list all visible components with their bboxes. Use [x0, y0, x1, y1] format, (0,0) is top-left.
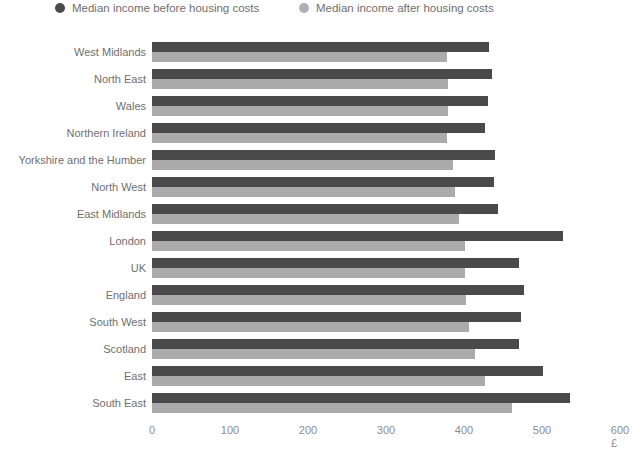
- bar-before-housing-costs[interactable]: [152, 123, 485, 133]
- x-axis-tick-0: 0: [149, 424, 155, 436]
- chart-legend: Median income before housing costs Media…: [0, 0, 640, 26]
- y-axis-label-south-east: South East: [92, 398, 146, 409]
- y-axis-label-west-midlands: West Midlands: [74, 47, 146, 58]
- bar-group: [152, 69, 620, 89]
- legend-item-after-housing-costs[interactable]: Median income after housing costs: [299, 2, 494, 14]
- bar-after-housing-costs[interactable]: [152, 322, 469, 332]
- bar-after-housing-costs[interactable]: [152, 106, 448, 116]
- bar-group: [152, 96, 620, 116]
- bar-before-housing-costs[interactable]: [152, 69, 492, 79]
- bar-after-housing-costs[interactable]: [152, 376, 485, 386]
- bar-after-housing-costs[interactable]: [152, 295, 466, 305]
- bar-group: [152, 393, 620, 413]
- bar-group: [152, 258, 620, 278]
- bar-before-housing-costs[interactable]: [152, 312, 521, 322]
- bar-after-housing-costs[interactable]: [152, 214, 459, 224]
- x-axis-tick-300: 300: [377, 424, 395, 436]
- y-axis-category-labels: West MidlandsNorth EastWalesNorthern Ire…: [0, 40, 146, 418]
- legend-item-before-housing-costs[interactable]: Median income before housing costs: [55, 2, 259, 14]
- legend-label: Median income after housing costs: [316, 2, 494, 14]
- bar-group: [152, 177, 620, 197]
- bar-before-housing-costs[interactable]: [152, 177, 494, 187]
- legend-label: Median income before housing costs: [72, 2, 259, 14]
- y-axis-label-south-west: South West: [89, 317, 146, 328]
- y-axis-label-scotland: Scotland: [103, 344, 146, 355]
- y-axis-label-wales: Wales: [116, 101, 146, 112]
- bar-group: [152, 366, 620, 386]
- bar-before-housing-costs[interactable]: [152, 204, 498, 214]
- bar-group: [152, 150, 620, 170]
- bar-before-housing-costs[interactable]: [152, 231, 563, 241]
- bar-after-housing-costs[interactable]: [152, 349, 475, 359]
- bar-before-housing-costs[interactable]: [152, 150, 495, 160]
- bar-before-housing-costs[interactable]: [152, 366, 543, 376]
- bar-after-housing-costs[interactable]: [152, 52, 447, 62]
- bar-before-housing-costs[interactable]: [152, 393, 570, 403]
- y-axis-label-north-east: North East: [94, 74, 146, 85]
- y-axis-label-yorkshire-and-the-humber: Yorkshire and the Humber: [19, 155, 146, 166]
- y-axis-label-england: England: [106, 290, 146, 301]
- bar-group: [152, 339, 620, 359]
- bar-group: [152, 42, 620, 62]
- bar-rows: [152, 40, 620, 418]
- x-axis: 0100200300400500600: [152, 418, 620, 440]
- x-axis-tick-600: 600: [611, 424, 629, 436]
- bar-before-housing-costs[interactable]: [152, 339, 519, 349]
- bar-after-housing-costs[interactable]: [152, 133, 447, 143]
- y-axis-label-north-west: North West: [91, 182, 146, 193]
- bar-after-housing-costs[interactable]: [152, 241, 465, 251]
- bar-after-housing-costs[interactable]: [152, 79, 448, 89]
- legend-marker-icon: [55, 3, 65, 13]
- bar-before-housing-costs[interactable]: [152, 285, 524, 295]
- x-axis-tick-400: 400: [455, 424, 473, 436]
- legend-marker-icon: [299, 3, 309, 13]
- bar-group: [152, 123, 620, 143]
- bar-group: [152, 312, 620, 332]
- x-axis-tick-100: 100: [221, 424, 239, 436]
- x-axis-tick-200: 200: [299, 424, 317, 436]
- y-axis-label-east: East: [124, 371, 146, 382]
- y-axis-label-uk: UK: [131, 263, 146, 274]
- y-axis-label-east-midlands: East Midlands: [77, 209, 146, 220]
- bar-group: [152, 204, 620, 224]
- bar-group: [152, 231, 620, 251]
- y-axis-label-northern-ireland: Northern Ireland: [67, 128, 147, 139]
- bar-after-housing-costs[interactable]: [152, 403, 512, 413]
- bar-after-housing-costs[interactable]: [152, 160, 453, 170]
- x-axis-unit-label: £: [611, 437, 617, 449]
- income-bar-chart: Median income before housing costs Media…: [0, 0, 640, 458]
- plot-area: [152, 40, 620, 418]
- y-axis-label-london: London: [109, 236, 146, 247]
- bar-before-housing-costs[interactable]: [152, 96, 488, 106]
- bar-group: [152, 285, 620, 305]
- x-axis-tick-500: 500: [533, 424, 551, 436]
- bar-before-housing-costs[interactable]: [152, 258, 519, 268]
- bar-after-housing-costs[interactable]: [152, 268, 465, 278]
- bar-before-housing-costs[interactable]: [152, 42, 489, 52]
- bar-after-housing-costs[interactable]: [152, 187, 455, 197]
